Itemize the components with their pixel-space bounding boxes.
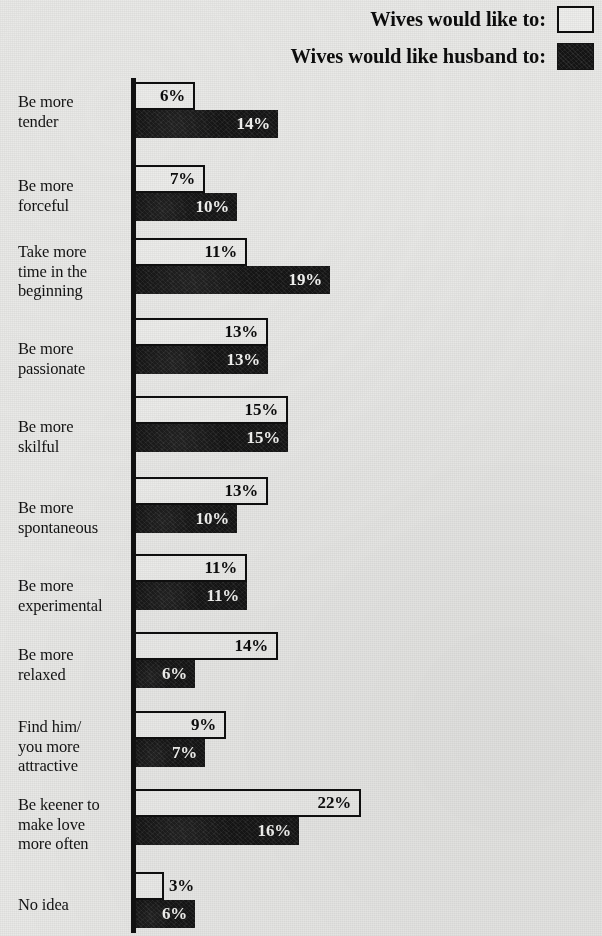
bar-solid: 7% bbox=[133, 739, 205, 767]
bar-value-label: 15% bbox=[245, 400, 286, 420]
category-label: No idea bbox=[18, 895, 128, 915]
category-label-line: Be more bbox=[18, 498, 128, 518]
bar-open: 11% bbox=[133, 238, 247, 266]
bar-pair: 6%14% bbox=[133, 82, 278, 138]
bar-value-label: 19% bbox=[289, 270, 330, 290]
bar-pair: 22%16% bbox=[133, 789, 361, 845]
category-label-line: No idea bbox=[18, 895, 128, 915]
bar-value-label: 10% bbox=[196, 197, 237, 217]
category-label: Take moretime in thebeginning bbox=[18, 242, 128, 301]
bar-pair: 13%13% bbox=[133, 318, 268, 374]
legend-label: Wives would like husband to: bbox=[291, 46, 546, 67]
category-label-line: skilful bbox=[18, 437, 128, 457]
vertical-axis-line bbox=[131, 78, 136, 933]
bar-value-label: 14% bbox=[235, 636, 276, 656]
bar-solid: 6% bbox=[133, 900, 195, 928]
bar-pair: 3%6% bbox=[133, 872, 195, 928]
category-label-line: passionate bbox=[18, 359, 128, 379]
bar-value-label: 16% bbox=[258, 821, 299, 841]
bar-pair: 11%19% bbox=[133, 238, 330, 294]
bar-value-label: 6% bbox=[162, 904, 195, 924]
bar-value-label: 7% bbox=[170, 169, 203, 189]
category-label: Be morepassionate bbox=[18, 339, 128, 378]
bar-value-label: 11% bbox=[207, 586, 247, 606]
category-label-line: Take more bbox=[18, 242, 128, 262]
bar-value-label: 13% bbox=[227, 350, 268, 370]
category-label-line: more often bbox=[18, 834, 128, 854]
bar-open: 3% bbox=[133, 872, 164, 900]
bar-value-label: 3% bbox=[162, 876, 194, 896]
chart-plot-area: Be moretender6%14%Be moreforceful7%10%Ta… bbox=[0, 0, 602, 936]
bar-pair: 7%10% bbox=[133, 165, 237, 221]
bar-solid: 15% bbox=[133, 424, 288, 452]
category-label-line: relaxed bbox=[18, 665, 128, 685]
category-label-line: Be more bbox=[18, 645, 128, 665]
category-label: Be morerelaxed bbox=[18, 645, 128, 684]
bar-pair: 11%11% bbox=[133, 554, 247, 610]
category-label: Be moretender bbox=[18, 92, 128, 131]
category-label-line: experimental bbox=[18, 596, 128, 616]
bar-solid: 11% bbox=[133, 582, 247, 610]
bar-solid: 6% bbox=[133, 660, 195, 688]
bar-open: 14% bbox=[133, 632, 278, 660]
category-label-line: Be more bbox=[18, 576, 128, 596]
bar-solid: 19% bbox=[133, 266, 330, 294]
bar-open: 13% bbox=[133, 318, 268, 346]
bar-solid: 16% bbox=[133, 817, 299, 845]
category-label-line: beginning bbox=[18, 281, 128, 301]
category-label: Be moreexperimental bbox=[18, 576, 128, 615]
bar-value-label: 6% bbox=[162, 664, 195, 684]
category-label-line: make love bbox=[18, 815, 128, 835]
chart-legend: Wives would like to: Wives would like hu… bbox=[291, 6, 594, 80]
bar-pair: 14%6% bbox=[133, 632, 278, 688]
bar-value-label: 6% bbox=[160, 86, 193, 106]
category-label-line: Be more bbox=[18, 417, 128, 437]
bar-value-label: 15% bbox=[247, 428, 288, 448]
category-label-line: Find him/ bbox=[18, 717, 128, 737]
bar-value-label: 22% bbox=[318, 793, 359, 813]
filled-square-icon bbox=[557, 43, 594, 70]
category-label: Be moreforceful bbox=[18, 176, 128, 215]
bar-solid: 14% bbox=[133, 110, 278, 138]
category-label-line: Be keener to bbox=[18, 795, 128, 815]
bar-value-label: 13% bbox=[225, 322, 266, 342]
bar-value-label: 11% bbox=[205, 558, 245, 578]
category-label-line: attractive bbox=[18, 756, 128, 776]
bar-open: 9% bbox=[133, 711, 226, 739]
category-label-line: forceful bbox=[18, 196, 128, 216]
category-label-line: Be more bbox=[18, 176, 128, 196]
open-square-icon bbox=[557, 6, 594, 33]
bar-open: 7% bbox=[133, 165, 205, 193]
category-label: Be morespontaneous bbox=[18, 498, 128, 537]
bar-pair: 15%15% bbox=[133, 396, 288, 452]
bar-value-label: 7% bbox=[172, 743, 205, 763]
category-label-line: time in the bbox=[18, 262, 128, 282]
bar-pair: 13%10% bbox=[133, 477, 268, 533]
bar-value-label: 9% bbox=[191, 715, 224, 735]
legend-item-wives-would-like-husband-to: Wives would like husband to: bbox=[291, 43, 594, 70]
bar-open: 22% bbox=[133, 789, 361, 817]
category-label: Find him/you moreattractive bbox=[18, 717, 128, 776]
bar-value-label: 10% bbox=[196, 509, 237, 529]
bar-solid: 10% bbox=[133, 193, 237, 221]
legend-item-wives-would-like-to: Wives would like to: bbox=[291, 6, 594, 33]
bar-open: 15% bbox=[133, 396, 288, 424]
category-label-line: Be more bbox=[18, 339, 128, 359]
category-label: Be keener tomake lovemore often bbox=[18, 795, 128, 854]
bar-value-label: 14% bbox=[237, 114, 278, 134]
category-label-line: Be more bbox=[18, 92, 128, 112]
bar-open: 13% bbox=[133, 477, 268, 505]
bar-open: 6% bbox=[133, 82, 195, 110]
category-label-line: spontaneous bbox=[18, 518, 128, 538]
category-label-line: you more bbox=[18, 737, 128, 757]
category-label-line: tender bbox=[18, 112, 128, 132]
bar-value-label: 13% bbox=[225, 481, 266, 501]
bar-solid: 13% bbox=[133, 346, 268, 374]
bar-open: 11% bbox=[133, 554, 247, 582]
legend-label: Wives would like to: bbox=[370, 9, 546, 30]
bar-value-label: 11% bbox=[205, 242, 245, 262]
bar-solid: 10% bbox=[133, 505, 237, 533]
bar-pair: 9%7% bbox=[133, 711, 226, 767]
category-label: Be moreskilful bbox=[18, 417, 128, 456]
